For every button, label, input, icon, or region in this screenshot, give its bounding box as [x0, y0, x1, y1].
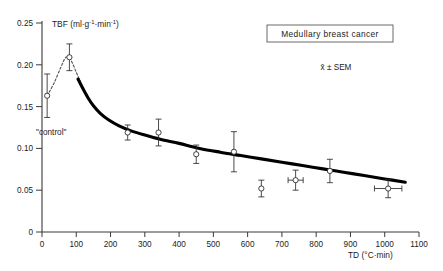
- y-tick-label: 0: [28, 228, 33, 237]
- x-tick-label: 400: [172, 240, 186, 249]
- y-tick-label: 0.10: [17, 144, 33, 153]
- data-point-marker: [293, 178, 298, 183]
- tbf-vs-td-scatter-plot: 00.050.100.150.200.25 010020030040050060…: [0, 0, 443, 271]
- x-tick-label: 200: [104, 240, 118, 249]
- data-point-marker: [125, 130, 130, 135]
- x-tick-label: 100: [69, 240, 83, 249]
- data-point-marker: [194, 152, 199, 157]
- data-point-marker: [386, 186, 391, 191]
- x-tick-label: 1100: [410, 240, 428, 249]
- dashed-rise-curve: [47, 57, 80, 96]
- data-point-group: [288, 170, 303, 190]
- control-annotation: "control": [36, 128, 66, 137]
- data-point-group: [258, 180, 264, 197]
- y-tick-labels: 00.050.100.150.200.25: [17, 19, 33, 237]
- y-tick-label: 0.25: [17, 19, 33, 28]
- stats-note: x̄ ± SEM: [321, 63, 352, 72]
- x-tick-labels: 010020030040050060070080090010001100: [40, 240, 429, 249]
- data-point-group: [327, 159, 333, 182]
- axes-group: [42, 21, 419, 232]
- y-tick-label: 0.05: [17, 186, 33, 195]
- data-point-group: [44, 74, 50, 117]
- x-tick-label: 700: [275, 240, 289, 249]
- data-point-marker: [327, 168, 332, 173]
- data-point-group: [66, 44, 72, 71]
- data-point-marker: [156, 130, 161, 135]
- x-tick-marks: [42, 232, 419, 237]
- x-tick-label: 1000: [376, 240, 395, 249]
- y-axis-title: TBF (ml·g-1·min-1): [52, 19, 119, 29]
- x-tick-label: 600: [241, 240, 255, 249]
- data-point-marker: [45, 93, 50, 98]
- y-tick-label: 0.15: [17, 103, 33, 112]
- data-point-marker: [231, 149, 236, 154]
- x-tick-label: 800: [309, 240, 323, 249]
- y-tick-label: 0.20: [17, 61, 33, 70]
- x-tick-label: 500: [207, 240, 221, 249]
- x-tick-label: 300: [138, 240, 152, 249]
- data-point-group: [156, 119, 162, 146]
- data-point-group: [231, 132, 237, 172]
- x-tick-label: 0: [40, 240, 45, 249]
- legend-box-group: Medullary breast cancer: [267, 25, 393, 42]
- x-axis-title: TD (°C·min): [348, 250, 393, 260]
- data-point-marker: [259, 186, 264, 191]
- data-point-marker: [67, 55, 72, 60]
- chart-figure: 00.050.100.150.200.25 010020030040050060…: [0, 0, 443, 271]
- legend-label: Medullary breast cancer: [281, 29, 378, 39]
- x-tick-label: 900: [344, 240, 358, 249]
